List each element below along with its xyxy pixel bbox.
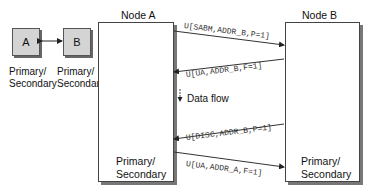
data-flow-label: Data flow <box>187 93 229 104</box>
